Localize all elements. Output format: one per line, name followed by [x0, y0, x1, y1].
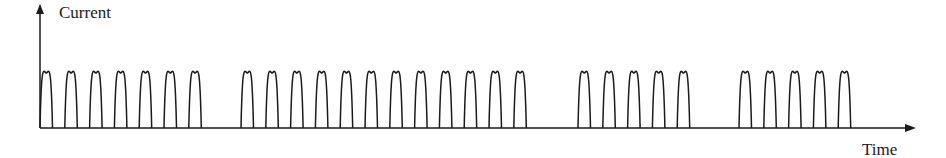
- pulse: [439, 71, 452, 128]
- pulse: [266, 71, 279, 128]
- pulse: [677, 71, 690, 128]
- pulse: [415, 71, 428, 128]
- pulse-group-3: [578, 71, 690, 128]
- x-axis-arrow-icon: [905, 124, 916, 132]
- current-time-diagram: Current Time: [0, 0, 946, 158]
- pulse: [390, 71, 403, 128]
- pulse: [838, 71, 851, 128]
- pulse: [139, 71, 152, 128]
- pulse: [65, 71, 78, 128]
- pulse-group-2: [241, 71, 526, 128]
- pulse: [652, 71, 665, 128]
- pulse: [628, 71, 641, 128]
- pulse: [340, 71, 353, 128]
- pulse: [164, 71, 177, 128]
- pulse-group-1: [40, 71, 201, 128]
- x-axis-label: Time: [862, 140, 897, 158]
- pulse: [241, 71, 254, 128]
- pulse: [189, 71, 202, 128]
- pulse: [489, 71, 502, 128]
- pulse: [90, 71, 103, 128]
- pulse: [514, 71, 527, 128]
- pulse: [40, 71, 53, 128]
- pulse: [365, 71, 378, 128]
- y-axis-label: Current: [59, 3, 111, 22]
- y-axis-arrow-icon: [36, 4, 44, 14]
- pulse-group-4: [739, 71, 851, 128]
- pulse: [578, 71, 591, 128]
- pulse: [291, 71, 304, 128]
- pulse-train: [40, 71, 851, 128]
- x-axis: [40, 124, 916, 132]
- pulse: [464, 71, 477, 128]
- pulse: [315, 71, 328, 128]
- pulse: [114, 71, 127, 128]
- pulse: [603, 71, 616, 128]
- pulse: [764, 71, 777, 128]
- pulse: [739, 71, 752, 128]
- pulse: [789, 71, 802, 128]
- pulse: [813, 71, 826, 128]
